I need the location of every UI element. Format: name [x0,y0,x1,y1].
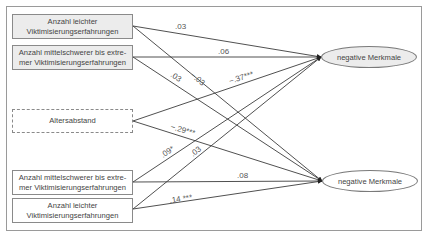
coef-p2-o1: .06 [218,47,230,56]
coef-p4-o1: .09* [159,144,176,159]
path-p3-o1 [133,57,321,121]
outcome-label: negative Merkmale [337,53,401,62]
predictor-box-light-victimization-2: Anzahl leichter Viktimisierungserfahrung… [12,198,133,223]
predictor-label: Altersabstand [49,116,95,126]
predictor-box-light-victimization-1: Anzahl leichter Viktimisierungserfahrung… [12,14,133,39]
predictor-label: Anzahl mittelschwerer bis extre-mer Vikt… [13,173,132,193]
predictor-label: Anzahl leichter Viktimisierungserfahrung… [13,17,132,37]
predictor-box-severe-victimization-1: Anzahl mittelschwerer bis extre-mer Vikt… [12,45,133,70]
path-p5-o2 [133,181,322,209]
path-p5-o1 [133,57,321,209]
predictor-label: Anzahl leichter Viktimisierungserfahrung… [13,201,132,221]
predictor-box-severe-victimization-2: Anzahl mittelschwerer bis extre-mer Vikt… [12,170,133,195]
coef-p5-o1: .03 [189,144,204,158]
coef-p5-o2: .14 *** [169,193,193,205]
predictor-box-age-gap: Altersabstand [12,109,133,133]
coef-p1-o1: .03 [175,22,187,31]
predictor-label: Anzahl mittelschwerer bis extre-mer Vikt… [13,48,132,68]
outcome-label: negative Merkmale [338,177,402,186]
coef-p1-o2: −.03 [189,71,207,88]
coef-p3-o1: −.37*** [228,70,255,86]
outcome-ellipse-negative-traits-2: negative Merkmale [322,170,418,192]
coef-p4-o2: .08 [237,171,249,180]
coef-p3-o2: −.29*** [169,122,196,138]
outcome-ellipse-negative-traits-1: negative Merkmale [321,46,417,68]
path-p4-o2 [133,181,322,182]
